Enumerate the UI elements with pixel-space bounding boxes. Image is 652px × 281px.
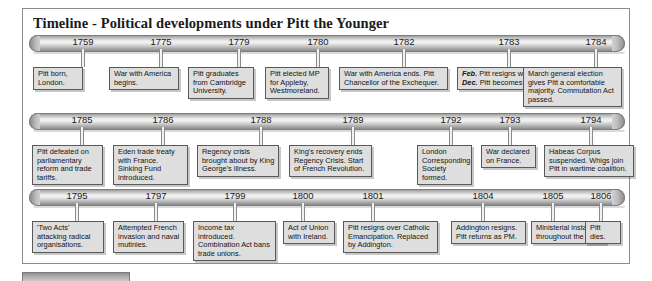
timeline-year-label: 1759 — [72, 36, 93, 47]
timeline-connector — [481, 203, 485, 221]
timeline-year-label: 1775 — [150, 36, 171, 47]
timeline-year-label: 1794 — [580, 114, 601, 125]
timeline-year-label: 1784 — [585, 36, 606, 47]
timeline-event-box: Addington resigns. Pitt returns as PM. — [451, 221, 526, 244]
timeline-event-box: 'Two Acts' attacking radical organisatio… — [32, 221, 104, 253]
timeline-event-box: War declared on France. — [481, 145, 536, 168]
timeline-year-label: 1789 — [342, 114, 363, 125]
timeline-event-box: Pitt born, London. — [33, 67, 83, 90]
timeline-event-box: Pitt resigns over Catholic Emancipation.… — [343, 221, 438, 253]
event-month-emphasis: Dec. — [462, 78, 478, 87]
timeline-connector — [371, 203, 375, 221]
timeline-bar — [29, 189, 625, 206]
timeline-connector — [449, 127, 453, 145]
timeline-event-box: Regency crisis brought about by King Geo… — [197, 145, 279, 177]
page-title: Timeline - Political developments under … — [33, 15, 389, 32]
timeline-event-box: King's recovery ends Regency Crisis. Sta… — [289, 145, 372, 177]
timeline-year-label: 1800 — [292, 190, 313, 201]
timeline-year-label: 1783 — [498, 36, 519, 47]
timeline-event-box: Pitt defeated on parliamentary reform an… — [32, 145, 103, 185]
timeline-connector — [259, 127, 263, 145]
timeline-year-label: 1804 — [472, 190, 493, 201]
bottom-tab-partial — [22, 272, 130, 281]
timeline-year-label: 1797 — [145, 190, 166, 201]
timeline-connector — [301, 203, 305, 221]
timeline-event-box: Pitt dies. — [585, 221, 621, 244]
timeline-event-box: War with America ends. Pitt Chancellor o… — [339, 67, 448, 90]
timeline-bar-shadow — [33, 52, 625, 54]
timeline-event-box: March general election gives Pitt a comf… — [523, 67, 622, 107]
timeline-year-label: 1780 — [307, 36, 328, 47]
timeline-year-label: 1785 — [71, 114, 92, 125]
timeline-event-box: London Corresponding Society formed. — [417, 145, 472, 185]
timeline-event-box: Pitt graduates from Cambridge University… — [188, 67, 254, 99]
timeline-event-box: War with America begins. — [109, 67, 179, 90]
timeline-connector — [237, 49, 241, 67]
timeline-year-label: 1782 — [393, 36, 414, 47]
timeline-event-box: Act of Union with Ireland. — [283, 221, 335, 244]
timeline-year-label: 1779 — [228, 36, 249, 47]
timeline-year-label: 1793 — [499, 114, 520, 125]
timeline-event-box: Income tax introduced. Combination Act b… — [193, 221, 276, 261]
timeline-connector — [594, 49, 598, 67]
timeline-event-box: Pitt elected MP for Appleby, Westmorelan… — [265, 67, 329, 99]
timeline-connector — [351, 127, 355, 145]
timeline-connector — [589, 127, 593, 145]
timeline-connector — [80, 127, 84, 145]
timeline-connector — [233, 203, 237, 221]
timeline-connector — [159, 49, 163, 67]
timeline-connector — [154, 203, 158, 221]
timeline-year-label: 1786 — [152, 114, 173, 125]
timeline-year-label: 1801 — [362, 190, 383, 201]
timeline-event-box: Attempted French invasion and naval muti… — [113, 221, 184, 253]
timeline-connector — [402, 49, 406, 67]
timeline-connector — [161, 127, 165, 145]
timeline-event-box: Eden trade treaty with France. Sinking F… — [113, 145, 188, 185]
timeline-year-label: 1795 — [66, 190, 87, 201]
timeline-page: Timeline - Political developments under … — [0, 0, 652, 281]
timeline-connector — [81, 49, 85, 67]
timeline-connector — [75, 203, 79, 221]
timeline-bar-shadow — [33, 130, 625, 132]
timeline-year-label: 1805 — [542, 190, 563, 201]
timeline-event-box: Habeas Corpus suspended. Whigs join Pitt… — [544, 145, 634, 177]
timeline-panel: Timeline - Political developments under … — [22, 8, 630, 264]
timeline-year-label: 1806 — [590, 190, 611, 201]
timeline-bar-shadow — [33, 206, 625, 208]
timeline-year-label: 1799 — [224, 190, 245, 201]
timeline-connector — [599, 203, 603, 221]
timeline-bar — [29, 113, 625, 130]
timeline-year-label: 1788 — [250, 114, 271, 125]
timeline-connector — [508, 127, 512, 145]
timeline-connector — [316, 49, 320, 67]
timeline-connector — [551, 203, 555, 221]
timeline-connector — [507, 49, 511, 67]
timeline-year-label: 1792 — [440, 114, 461, 125]
